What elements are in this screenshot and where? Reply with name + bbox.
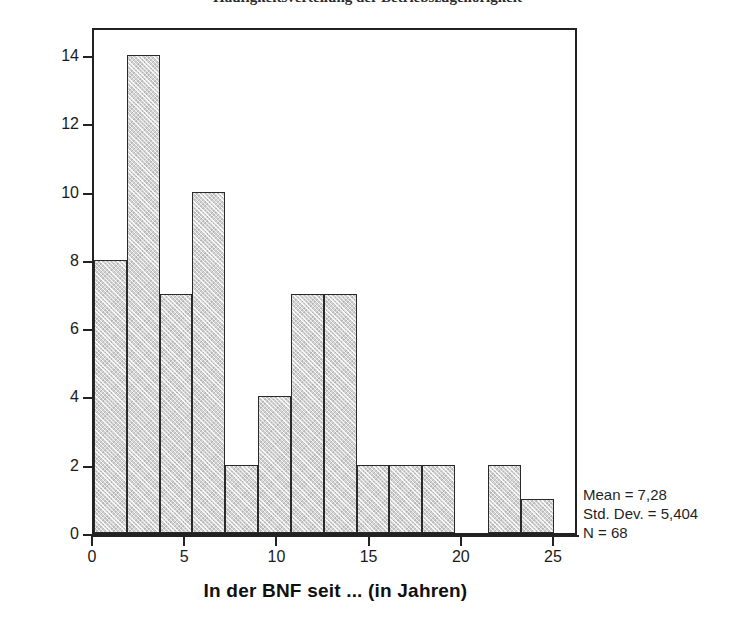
y-tick-mark bbox=[83, 56, 92, 58]
x-tick-label: 25 bbox=[537, 548, 569, 566]
y-tick-mark bbox=[83, 329, 92, 331]
y-tick-label: 6 bbox=[70, 320, 79, 338]
histogram-bar bbox=[258, 396, 291, 533]
plot-area bbox=[94, 30, 575, 533]
histogram-bar bbox=[94, 260, 127, 533]
y-tick-label: 8 bbox=[70, 252, 79, 270]
histogram-bar bbox=[521, 499, 554, 533]
y-axis: 02468101214 bbox=[0, 0, 92, 619]
x-tick-mark bbox=[183, 535, 185, 546]
x-tick-label: 0 bbox=[76, 548, 108, 566]
histogram-bar bbox=[357, 465, 390, 533]
x-tick-label: 20 bbox=[445, 548, 477, 566]
histogram-bar bbox=[324, 294, 357, 533]
x-tick-mark bbox=[91, 535, 93, 546]
stat-mean: Mean = 7,28 bbox=[583, 485, 698, 504]
statistics-annotation: Mean = 7,28 Std. Dev. = 5,404 N = 68 bbox=[583, 485, 698, 542]
histogram-figure: Häufigkeitsverteilung der Betriebszugehö… bbox=[0, 0, 735, 619]
histogram-bar bbox=[291, 294, 324, 533]
x-tick-mark bbox=[275, 535, 277, 546]
stat-std-dev: Std. Dev. = 5,404 bbox=[583, 504, 698, 523]
stat-n: N = 68 bbox=[583, 523, 698, 542]
x-tick-mark bbox=[368, 535, 370, 546]
x-tick-label: 5 bbox=[168, 548, 200, 566]
y-tick-label: 12 bbox=[61, 115, 79, 133]
histogram-bar bbox=[389, 465, 422, 533]
histogram-bar bbox=[192, 192, 225, 533]
x-tick-label: 10 bbox=[260, 548, 292, 566]
histogram-bar bbox=[422, 465, 455, 533]
histogram-bar bbox=[488, 465, 521, 533]
y-tick-label: 2 bbox=[70, 457, 79, 475]
histogram-bar bbox=[127, 55, 160, 533]
y-tick-mark bbox=[83, 124, 92, 126]
y-tick-mark bbox=[83, 193, 92, 195]
x-axis-line bbox=[92, 535, 579, 537]
x-axis-title: In der BNF seit ... (in Jahren) bbox=[92, 580, 579, 602]
y-tick-mark bbox=[83, 397, 92, 399]
y-tick-mark bbox=[83, 466, 92, 468]
x-tick-label: 15 bbox=[353, 548, 385, 566]
y-tick-label: 4 bbox=[70, 388, 79, 406]
histogram-bar bbox=[225, 465, 258, 533]
figure-title: Häufigkeitsverteilung der Betriebszugehö… bbox=[0, 0, 735, 6]
y-tick-label: 14 bbox=[61, 47, 79, 65]
y-tick-label: 10 bbox=[61, 184, 79, 202]
y-tick-mark bbox=[83, 261, 92, 263]
plot-frame bbox=[92, 28, 577, 535]
x-tick-mark bbox=[552, 535, 554, 546]
x-tick-mark bbox=[460, 535, 462, 546]
histogram-bar bbox=[160, 294, 193, 533]
cut-off-title-strip: Häufigkeitsverteilung der Betriebszugehö… bbox=[0, 0, 735, 12]
x-axis: In der BNF seit ... (in Jahren) 05101520… bbox=[0, 535, 735, 619]
